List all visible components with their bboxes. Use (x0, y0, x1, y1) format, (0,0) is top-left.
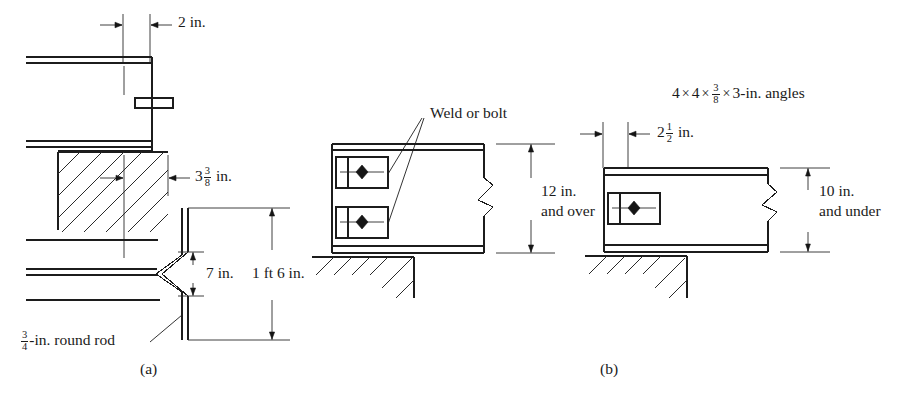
caption-b: (b) (600, 360, 618, 378)
arrowhead-10in-bottom (806, 244, 811, 251)
bent-plate-inner (156, 208, 182, 340)
arrowhead-10in-top (806, 169, 811, 176)
angle-length: 3-in. angles (732, 84, 804, 101)
bolt-symbol-b (628, 201, 640, 215)
panel-a-geometry (26, 14, 290, 342)
unit-b: in. (678, 123, 694, 140)
times-icon-2: × (699, 86, 711, 101)
bolt-symbol-lower (356, 215, 368, 229)
label-1-ft-6-in: 1 ft 6 in. (252, 264, 305, 282)
bent-plate-outer (162, 208, 188, 340)
label-10-in: 10 in. (819, 182, 854, 200)
arrowhead-1ft6-top (269, 209, 274, 216)
panel-b-geometry (580, 122, 830, 298)
arrowhead-a-mid-right (169, 175, 176, 181)
fraction-3-8-angle: 38 (712, 83, 719, 105)
angle-leg-a: 4 (672, 84, 680, 101)
beam12-break-line (478, 144, 493, 253)
caption-a: (a) (140, 360, 157, 378)
seat-plate-rect (135, 98, 173, 108)
unit: in. (216, 167, 232, 184)
whole-number: 3 (195, 167, 203, 184)
arrowhead-12in-top (528, 145, 533, 152)
weld-leader-lower (388, 118, 424, 224)
fraction-3-8: 38 (204, 166, 211, 188)
label-12-in: 12 in. (541, 182, 576, 200)
wall-hatching-b (589, 256, 687, 298)
times-icon-3: × (721, 86, 733, 101)
label-7-in: 7 in. (206, 264, 234, 282)
whole-number-b: 2 (657, 123, 665, 140)
figure-canvas: 2 in. 338 in. 7 in. 1 ft 6 in. 34-in. ro… (0, 0, 915, 399)
wall-hatching-b-left (316, 257, 414, 298)
beam10-break-line (762, 168, 777, 252)
fraction-3-4: 34 (21, 330, 28, 352)
weld-leader-upper (388, 118, 422, 174)
bolt-symbol-upper (356, 165, 368, 179)
arrowhead-12in-bottom (528, 245, 533, 252)
label-2-in: 2 in. (178, 13, 206, 31)
wall-hatching-a (58, 152, 168, 232)
arrowhead-b-top-left (595, 131, 602, 137)
arrowhead-7in-bottom (190, 288, 195, 295)
arrowhead-a-top-right (151, 22, 158, 28)
panel-b-left-geometry (312, 118, 555, 298)
label-and-over: and over (541, 202, 595, 220)
arrowhead-7in-top (190, 253, 195, 260)
label-3-and-3-8-in: 338 in. (195, 166, 232, 188)
drawing-vector-layer (0, 0, 915, 399)
label-2-and-1-2-in: 212 in. (657, 122, 694, 144)
round-rod-leader (150, 315, 182, 342)
label-round-rod: 34-in. round rod (20, 330, 115, 352)
times-icon-1: × (680, 86, 692, 101)
arrowhead-a-top-left (115, 22, 122, 28)
label-and-under: and under (819, 202, 881, 220)
label-weld-or-bolt: Weld or bolt (430, 104, 507, 122)
fraction-1-2: 12 (666, 122, 673, 144)
arrowhead-a-mid-left (116, 175, 123, 181)
arrowhead-b-top-right (629, 131, 636, 137)
round-rod-tail: -in. round rod (29, 331, 115, 348)
label-angle-spec: 4×4×38×3-in. angles (672, 83, 805, 105)
arrowhead-1ft6-bottom (269, 332, 274, 339)
